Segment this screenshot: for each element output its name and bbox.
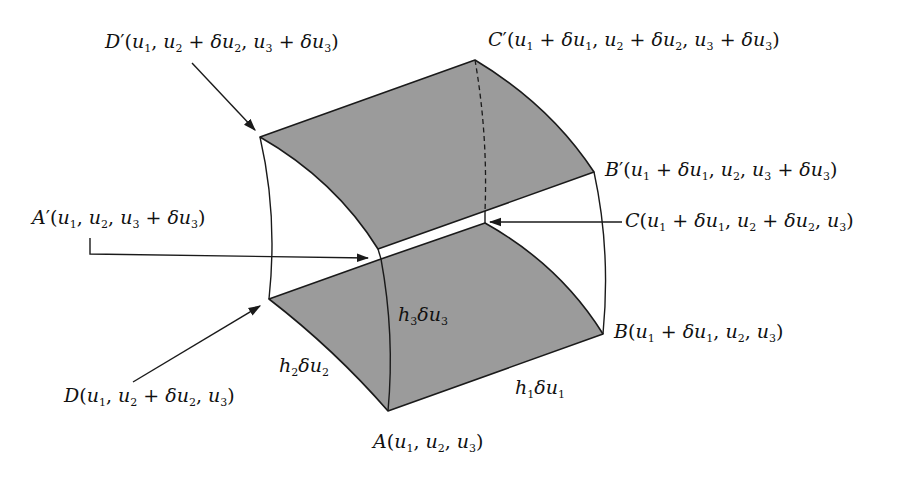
- edge-dprime-d: [260, 137, 272, 299]
- arrow-aprime: [90, 238, 368, 258]
- edge-length-h3: h3δu3: [398, 305, 448, 324]
- label-b-prime: B′(u1 + δu1, u2, u3 + δu3): [605, 160, 837, 179]
- top-face: [260, 60, 594, 249]
- gap-edge-aprime: [378, 249, 381, 259]
- edge-length-h2: h2δu2: [279, 356, 329, 375]
- label-c: C(u1 + δu1, u2 + δu2, u3): [625, 211, 854, 230]
- label-d-prime: D′(u1, u2 + δu2, u3 + δu3): [105, 32, 339, 51]
- label-b: B(u1 + δu1, u2, u3): [614, 322, 783, 341]
- arrow-dprime: [192, 63, 255, 130]
- label-d: D(u1, u2 + δu2, u3): [64, 386, 235, 405]
- label-c-prime: C′(u1 + δu1, u2 + δu2, u3 + δu3): [488, 30, 780, 49]
- label-a-prime: A′(u1, u2, u3 + δu3): [32, 208, 206, 227]
- edge-length-h1: h1δu1: [515, 378, 565, 397]
- arrow-d: [133, 306, 260, 382]
- edge-bprime-b: [594, 172, 606, 334]
- label-a: A(u1, u2, u3): [373, 432, 484, 451]
